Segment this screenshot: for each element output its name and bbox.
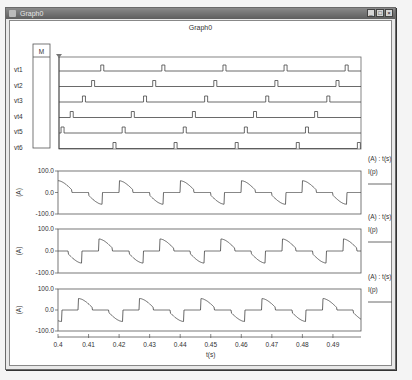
legend-item: I(p) xyxy=(368,226,378,234)
trace-vt2 xyxy=(59,81,361,87)
trace-label-vt6: vt6 xyxy=(14,144,23,151)
xtick-label: 0.43 xyxy=(143,341,156,348)
plot-area: Mvt1vt2vt3vt4vt5vt6100.00.0-100.0(A)(A) … xyxy=(0,0,412,380)
ytick-label: 0.0 xyxy=(45,306,54,313)
ytick-label: -100.0 xyxy=(36,210,55,217)
xtick-label: 0.46 xyxy=(235,341,248,348)
trace-label-vt1: vt1 xyxy=(14,66,23,73)
ytick-label: -100.0 xyxy=(36,269,55,276)
xtick-label: 0.47 xyxy=(266,341,279,348)
marker-label: M xyxy=(39,48,44,55)
trace-vt3 xyxy=(59,96,361,102)
ytick-label: 0.0 xyxy=(45,189,54,196)
ytick-label: 100.0 xyxy=(38,167,55,174)
x-axis-label: t(s) xyxy=(206,351,215,359)
trace-vt6 xyxy=(59,143,361,149)
trace-label-vt4: vt4 xyxy=(14,113,23,120)
xtick-label: 0.44 xyxy=(174,341,187,348)
trace-vt5 xyxy=(59,127,361,133)
xtick-label: 0.42 xyxy=(113,341,126,348)
legend-item: I(p) xyxy=(368,286,378,294)
trace-label-vt3: vt3 xyxy=(14,97,23,104)
ytick-label: 0.0 xyxy=(45,247,54,254)
trace-label-vt2: vt2 xyxy=(14,82,23,89)
y-axis-unit: (A) xyxy=(15,306,23,315)
xtick-label: 0.49 xyxy=(327,341,340,348)
trace-vt1 xyxy=(59,65,361,71)
xtick-label: 0.48 xyxy=(296,341,309,348)
marker-box[interactable] xyxy=(33,44,50,148)
xtick-label: 0.41 xyxy=(82,341,95,348)
legend-header: (A) : t(s) xyxy=(368,213,391,221)
ytick-label: 100.0 xyxy=(38,225,55,232)
trace-label-vt5: vt5 xyxy=(14,128,23,135)
xtick-label: 0.45 xyxy=(204,341,217,348)
ytick-label: -100.0 xyxy=(36,327,55,334)
trace-vt4 xyxy=(59,112,361,118)
xtick-label: 0.4 xyxy=(53,341,62,348)
legend-header: (A) : t(s) xyxy=(368,273,391,281)
legend-item: I(p) xyxy=(368,168,378,176)
y-axis-unit: (A) xyxy=(15,247,23,256)
y-axis-unit: (A) xyxy=(15,188,23,197)
ytick-label: 100.0 xyxy=(38,285,55,292)
legend-header: (A) : t(s) xyxy=(368,155,391,163)
